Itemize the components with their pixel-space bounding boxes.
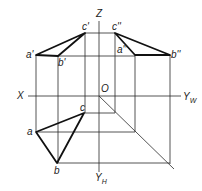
point-a-top-label: a	[27, 127, 33, 137]
front-view-triangle	[36, 33, 85, 56]
point-b-side-label: b''	[171, 50, 180, 60]
yh-main: Y	[95, 172, 102, 183]
point-a-front-label: a'	[26, 50, 33, 60]
projection-diagram: Z X O YW YH a' b' c' a'' b'' c'' a b c	[0, 0, 202, 191]
yw-subscript: W	[190, 97, 197, 104]
yh-subscript: H	[102, 178, 107, 185]
origin-label: O	[101, 84, 109, 94]
yh-axis-label: YH	[95, 173, 107, 185]
diagonal-45-line	[99, 96, 174, 169]
x-axis-label: X	[17, 91, 24, 101]
point-b-front-label: b'	[58, 58, 65, 68]
point-c-side-label: c''	[112, 22, 121, 32]
yw-axis-label: YW	[183, 92, 196, 104]
top-view-triangle	[36, 113, 84, 163]
projection-lines	[0, 0, 202, 191]
point-c-front-label: c'	[82, 22, 89, 32]
point-b-top-label: b	[54, 166, 60, 176]
yw-main: Y	[183, 91, 190, 102]
point-a-side-label: a''	[117, 45, 126, 55]
point-c-top-label: c	[80, 103, 85, 113]
z-axis-label: Z	[96, 9, 102, 19]
